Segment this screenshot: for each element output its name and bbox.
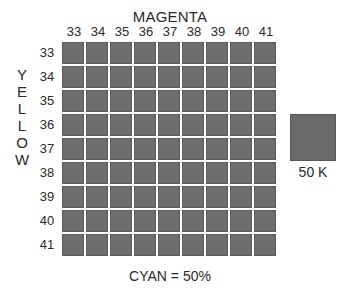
yellow-axis-title: YELLOW (15, 66, 29, 168)
column-label: 34 (86, 24, 110, 39)
color-patch (182, 90, 204, 112)
color-patch (230, 138, 252, 160)
color-patch (110, 42, 132, 64)
magenta-column-labels: 333435363738394041 (62, 24, 278, 39)
row-label: 38 (36, 162, 58, 186)
color-patch (158, 138, 180, 160)
color-patch (86, 66, 108, 88)
color-patch (134, 138, 156, 160)
column-label: 37 (158, 24, 182, 39)
color-patch (230, 66, 252, 88)
row-label: 34 (36, 66, 58, 90)
color-patch (110, 186, 132, 208)
color-patch (206, 234, 228, 256)
color-patch (62, 42, 84, 64)
color-patch (62, 210, 84, 232)
row-label: 33 (36, 42, 58, 66)
row-label: 40 (36, 210, 58, 234)
yellow-letter: L (15, 117, 29, 134)
color-patch (86, 42, 108, 64)
color-patch (86, 186, 108, 208)
black-reference-swatch (290, 114, 336, 161)
color-patch (110, 162, 132, 184)
color-patch (254, 210, 276, 232)
row-label: 35 (36, 90, 58, 114)
color-patch (206, 138, 228, 160)
color-patch (254, 138, 276, 160)
color-patch (134, 234, 156, 256)
color-patch (182, 114, 204, 136)
color-patch (158, 234, 180, 256)
color-patch (110, 114, 132, 136)
color-patch (230, 90, 252, 112)
color-patch (134, 186, 156, 208)
color-patch (110, 210, 132, 232)
color-patch (254, 186, 276, 208)
row-label: 36 (36, 114, 58, 138)
color-patch (86, 138, 108, 160)
row-label: 37 (36, 138, 58, 162)
color-patch (182, 210, 204, 232)
yellow-letter: W (15, 151, 29, 168)
color-patch (62, 66, 84, 88)
column-label: 38 (182, 24, 206, 39)
color-patch (62, 114, 84, 136)
column-label: 35 (110, 24, 134, 39)
color-patch (86, 114, 108, 136)
color-patch (254, 114, 276, 136)
color-patch (110, 138, 132, 160)
yellow-letter: L (15, 100, 29, 117)
black-reference-label: 50 K (286, 164, 340, 180)
color-patch (110, 90, 132, 112)
color-patch (158, 114, 180, 136)
color-patch (158, 66, 180, 88)
color-patch (254, 162, 276, 184)
column-label: 40 (230, 24, 254, 39)
column-label: 36 (134, 24, 158, 39)
color-patch (182, 234, 204, 256)
color-patch (254, 66, 276, 88)
color-patch (158, 162, 180, 184)
color-patch (206, 90, 228, 112)
color-patch (230, 186, 252, 208)
color-patch-grid (62, 42, 276, 256)
color-patch (62, 234, 84, 256)
color-patch (254, 90, 276, 112)
color-patch (254, 42, 276, 64)
color-patch (62, 90, 84, 112)
color-patch (230, 42, 252, 64)
column-label: 41 (254, 24, 278, 39)
yellow-row-labels: 333435363738394041 (36, 42, 58, 258)
color-patch (230, 114, 252, 136)
color-patch (182, 42, 204, 64)
color-patch (206, 114, 228, 136)
color-patch (206, 210, 228, 232)
color-patch (86, 90, 108, 112)
column-label: 39 (206, 24, 230, 39)
color-patch (134, 114, 156, 136)
color-patch (158, 42, 180, 64)
color-patch (182, 66, 204, 88)
color-patch (134, 90, 156, 112)
column-label: 33 (62, 24, 86, 39)
color-patch (134, 210, 156, 232)
color-patch (230, 162, 252, 184)
magenta-axis-title: MAGENTA (62, 8, 278, 25)
color-patch (230, 210, 252, 232)
color-patch (134, 66, 156, 88)
color-patch (62, 162, 84, 184)
color-patch (110, 66, 132, 88)
color-patch (206, 186, 228, 208)
color-patch (206, 42, 228, 64)
color-patch (158, 90, 180, 112)
color-patch (158, 210, 180, 232)
color-patch (86, 234, 108, 256)
row-label: 41 (36, 234, 58, 258)
yellow-letter: Y (15, 66, 29, 83)
color-patch (62, 138, 84, 160)
yellow-letter: E (15, 83, 29, 100)
color-patch (182, 186, 204, 208)
color-patch (134, 162, 156, 184)
color-patch (206, 66, 228, 88)
color-patch (158, 186, 180, 208)
